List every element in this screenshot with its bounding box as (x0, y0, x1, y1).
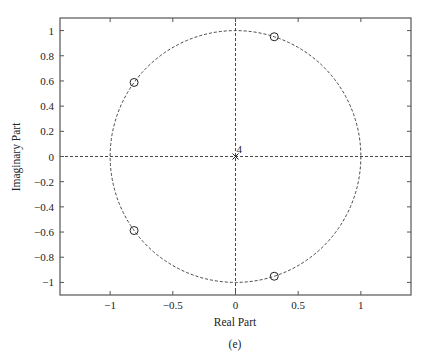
x-tick-label: −1 (104, 299, 116, 311)
y-tick-label: 0.2 (40, 125, 54, 137)
pole-zero-plot: −1−0.500.5110.80.60.40.20−0.2−0.4−0.6−0.… (0, 0, 429, 359)
y-tick-label: −0.8 (34, 251, 54, 263)
y-tick-label: −0.2 (34, 176, 54, 188)
x-tick-label: 0.5 (291, 299, 305, 311)
axis-ticks: −1−0.500.5110.80.60.40.20−0.2−0.4−0.6−0.… (34, 18, 411, 311)
y-axis-label: Imaginary Part (10, 122, 23, 191)
x-tick-label: 1 (358, 299, 364, 311)
y-tick-label: −1 (42, 276, 54, 288)
y-tick-label: 0.8 (40, 50, 54, 62)
pole-multiplicity-label: 4 (237, 143, 243, 155)
figure-caption: (e) (229, 338, 242, 351)
x-tick-label: 0 (233, 299, 239, 311)
y-tick-label: −0.6 (34, 226, 54, 238)
zero-marker-icon (130, 78, 138, 86)
y-tick-label: 0.6 (40, 75, 54, 87)
y-tick-label: 1 (49, 25, 55, 37)
y-tick-label: 0 (49, 151, 55, 163)
y-tick-label: −0.4 (34, 201, 54, 213)
x-tick-label: −0.5 (163, 299, 183, 311)
x-axis-label: Real Part (214, 316, 257, 328)
y-tick-label: 0.4 (40, 100, 54, 112)
